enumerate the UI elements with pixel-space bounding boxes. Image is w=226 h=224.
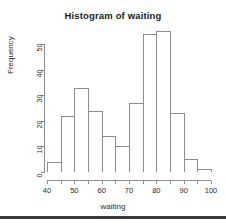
histogram-bar (88, 111, 103, 172)
chart-title: Histogram of waiting (0, 10, 226, 21)
x-axis-tick (170, 181, 171, 184)
x-axis-tick-label: 50 (64, 186, 84, 195)
histogram-bar (74, 88, 89, 172)
x-axis-tick (197, 181, 198, 184)
x-axis-tick (211, 181, 212, 184)
x-axis-tick-label: 40 (37, 186, 57, 195)
y-axis-tick-label: 50 (36, 41, 43, 55)
histogram-bar (143, 34, 158, 172)
x-axis-tick (47, 181, 48, 184)
histogram-plot: Histogram of waiting Frequency 010203040… (0, 0, 226, 224)
y-axis-label: Frequency (6, 36, 15, 74)
histogram-bar (102, 136, 117, 172)
x-axis-tick (61, 181, 62, 184)
bottom-border (0, 216, 226, 219)
x-axis-tick (115, 181, 116, 184)
x-axis-tick (143, 181, 144, 184)
y-axis-tick-label: 30 (36, 92, 43, 106)
histogram-bar (156, 31, 171, 172)
x-axis-tick-label: 80 (146, 186, 166, 195)
x-axis-tick (129, 181, 130, 184)
histogram-bar (47, 162, 62, 172)
x-axis-tick (184, 181, 185, 184)
histogram-bar (197, 169, 212, 172)
histogram-bar (129, 103, 144, 172)
histogram-bar (184, 159, 199, 172)
y-axis-line (44, 44, 45, 173)
x-axis-tick-label: 60 (92, 186, 112, 195)
x-axis-tick (102, 181, 103, 184)
histogram-bar (61, 116, 76, 172)
x-axis-tick-label: 90 (174, 186, 194, 195)
y-axis-tick-label: 40 (36, 66, 43, 80)
x-axis-tick-label: 70 (119, 186, 139, 195)
x-axis-label: waiting (0, 202, 226, 211)
bars-container (47, 36, 211, 172)
x-axis-tick (156, 181, 157, 184)
x-axis-tick (88, 181, 89, 184)
x-axis-tick (74, 181, 75, 184)
histogram-bar (115, 146, 130, 172)
y-axis-tick-label: 10 (36, 143, 43, 157)
y-axis-tick-label: 0 (36, 169, 43, 183)
histogram-bar (170, 113, 185, 172)
y-axis-tick-label: 20 (36, 117, 43, 131)
x-axis-tick-label: 100 (201, 186, 221, 195)
